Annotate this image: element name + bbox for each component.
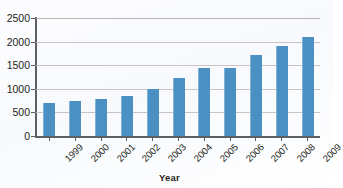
gridline	[36, 18, 320, 19]
x-axis-tick	[49, 136, 50, 141]
x-axis-tick-label-2004: 2004	[192, 142, 214, 164]
bar-2007	[250, 55, 262, 136]
y-axis-tick-label: 2500	[0, 13, 30, 24]
y-axis-tick	[31, 112, 36, 113]
plot-area	[36, 18, 320, 136]
y-axis-tick-label: 0	[0, 131, 30, 142]
x-axis-tick-label-2002: 2002	[141, 142, 163, 164]
x-axis-tick	[101, 136, 102, 141]
y-axis-tick	[31, 89, 36, 90]
bar-2001	[95, 99, 107, 136]
x-axis-title: Year	[0, 172, 333, 183]
y-axis-tick	[31, 65, 36, 66]
y-axis-tick	[31, 136, 36, 137]
y-axis-tick-labels: 05001000150020002500	[0, 0, 30, 188]
x-axis-tick	[307, 136, 308, 141]
bar-2004	[173, 78, 185, 136]
x-axis-tick	[126, 136, 127, 141]
y-axis-tick-label: 2000	[0, 37, 30, 48]
bar-2008	[276, 46, 288, 136]
x-axis-tick-label-2006: 2006	[244, 142, 266, 164]
x-axis-tick-label-2001: 2001	[115, 142, 137, 164]
bar-2000	[69, 101, 81, 136]
y-axis-tick-label: 1000	[0, 84, 30, 95]
x-axis-tick	[75, 136, 76, 141]
bar-2003	[147, 89, 159, 136]
bar-2005	[198, 68, 210, 136]
x-axis-tick-label-2003: 2003	[166, 142, 188, 164]
x-axis-tick-label-2008: 2008	[295, 142, 317, 164]
gridline	[36, 42, 320, 43]
x-axis-tick	[281, 136, 282, 141]
y-axis-tick	[31, 18, 36, 19]
x-axis-tick-label-1999: 1999	[63, 142, 85, 164]
x-axis-tick	[204, 136, 205, 141]
bar-2009	[302, 37, 314, 136]
y-axis-tick-label: 1500	[0, 60, 30, 71]
x-axis-tick-label-2000: 2000	[89, 142, 111, 164]
x-axis-tick	[255, 136, 256, 141]
y-axis-tick	[31, 42, 36, 43]
y-axis-tick-label: 500	[0, 107, 30, 118]
bar-1999	[43, 103, 55, 136]
x-axis-tick	[230, 136, 231, 141]
x-axis-tick-label-2009: 2009	[321, 142, 343, 164]
bar-2006	[224, 68, 236, 136]
x-axis-tick-label-2005: 2005	[218, 142, 240, 164]
x-axis-tick-label-2007: 2007	[270, 142, 292, 164]
x-axis-tick	[178, 136, 179, 141]
x-axis-title-text: Year	[159, 172, 180, 183]
x-axis-tick	[152, 136, 153, 141]
bar-2002	[121, 96, 133, 136]
